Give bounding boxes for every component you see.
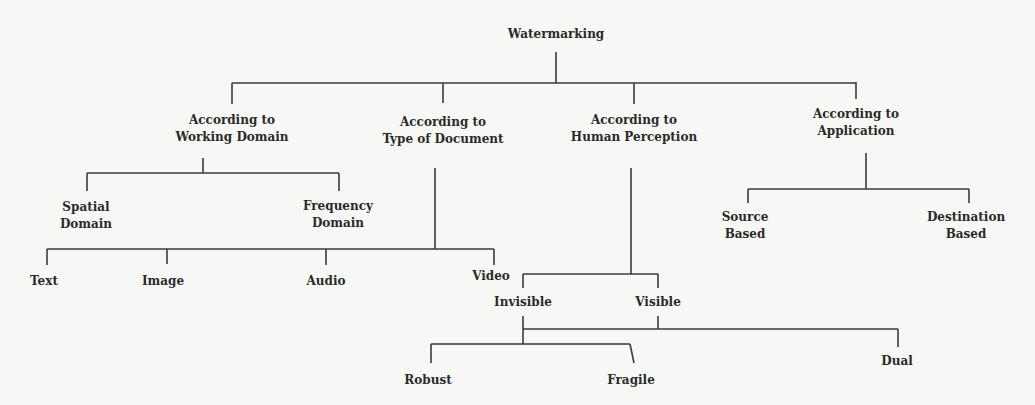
node-label: Application — [813, 123, 899, 140]
node-label: According to — [382, 114, 503, 131]
node-label: Based — [722, 226, 769, 243]
node-human-perception: According to Human Perception — [571, 112, 697, 146]
node-label: According to — [813, 106, 899, 123]
node-label: Image — [142, 273, 184, 290]
node-label: Destination — [927, 209, 1005, 226]
node-source-based: Source Based — [722, 209, 769, 243]
node-label: Human Perception — [571, 129, 697, 146]
node-robust: Robust — [404, 372, 451, 389]
node-label: Audio — [307, 273, 346, 290]
connector-lines — [0, 0, 1035, 405]
node-label: Text — [30, 273, 58, 290]
node-label: Fragile — [607, 372, 655, 389]
node-audio: Audio — [307, 273, 346, 290]
node-video: Video — [472, 268, 510, 285]
node-label: Domain — [303, 215, 373, 232]
node-watermarking: Watermarking — [508, 26, 605, 43]
node-type-of-document: According to Type of Document — [382, 114, 503, 148]
node-label: Invisible — [494, 294, 552, 311]
node-application: According to Application — [813, 106, 899, 140]
node-frequency-domain: Frequency Domain — [303, 198, 373, 232]
node-label: Video — [472, 268, 510, 285]
node-label: Working Domain — [175, 129, 288, 146]
node-label: Spatial — [60, 199, 112, 216]
node-label: Based — [927, 226, 1005, 243]
node-dual: Dual — [881, 353, 912, 370]
node-working-domain: According to Working Domain — [175, 112, 288, 146]
node-label: Watermarking — [508, 26, 605, 43]
node-label: Frequency — [303, 198, 373, 215]
node-invisible: Invisible — [494, 294, 552, 311]
node-text: Text — [30, 273, 58, 290]
node-fragile: Fragile — [607, 372, 655, 389]
node-label: Source — [722, 209, 769, 226]
node-label: Type of Document — [382, 131, 503, 148]
node-spatial-domain: Spatial Domain — [60, 199, 112, 233]
node-label: According to — [175, 112, 288, 129]
node-label: According to — [571, 112, 697, 129]
node-destination-based: Destination Based — [927, 209, 1005, 243]
node-label: Domain — [60, 216, 112, 233]
node-image: Image — [142, 273, 184, 290]
node-label: Visible — [635, 294, 681, 311]
node-visible: Visible — [635, 294, 681, 311]
node-label: Robust — [404, 372, 451, 389]
node-label: Dual — [881, 353, 912, 370]
